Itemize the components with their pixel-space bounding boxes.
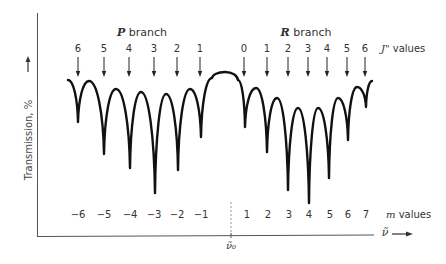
r-branch-title: R branch [281,28,332,38]
r-branch-m-label: 2 [265,210,271,220]
p-branch-j-label: 1 [197,44,203,54]
y-arrow-icon [26,56,31,72]
arrowhead-icon [242,71,246,77]
spectrum-figure [0,0,446,264]
p-branch-j-label: 4 [126,44,132,54]
arrowhead-icon [198,71,202,77]
arrowhead-icon [363,71,367,77]
r-branch-j-label: 2 [285,44,291,54]
arrowhead-icon [325,71,329,77]
r-branch-m-label: 5 [327,210,333,220]
p-branch-j-label: 2 [174,44,180,54]
p-branch-m-label: −4 [123,210,138,220]
p-branch-m-label: −6 [71,210,86,220]
band-center-label: ν̃₀ [226,241,236,251]
r-branch-m-label: 3 [286,210,292,220]
arrowhead-icon [127,71,131,77]
arrowhead-icon [152,71,156,77]
spectrum-curve [68,72,372,203]
j-values-label: J" values [381,44,425,54]
p-branch-m-label: −1 [194,210,209,220]
arrowhead-icon [306,71,310,77]
x-axis [38,235,375,237]
r-branch-j-label: 3 [305,44,311,54]
arrowhead-icon [175,71,179,77]
p-branch-m-label: −5 [97,210,112,220]
p-branch-j-label: 5 [101,44,107,54]
p-branch-m-label: −2 [170,210,185,220]
arrowhead-icon [265,71,269,77]
p-branch-j-label: 6 [75,44,81,54]
r-branch-j-label: 6 [362,44,368,54]
r-branch-j-label: 5 [344,44,350,54]
arrowhead-icon [76,71,80,77]
r-branch-m-label: 4 [306,210,312,220]
arrowhead-icon [286,71,290,77]
m-values-label: m values [386,210,431,220]
x-arrow-icon [392,232,413,237]
x-axis-label: ν̃ [382,228,389,238]
line-arrows [76,57,367,77]
r-branch-m-label: 1 [244,210,250,220]
y-axis-label: Transmission, % [23,100,34,180]
p-branch-j-label: 3 [151,44,157,54]
arrowhead-icon [102,71,106,77]
r-branch-j-label: 4 [324,44,330,54]
r-branch-j-label: 1 [264,44,270,54]
p-branch-title: P branch [117,28,167,38]
arrowhead-icon [345,71,349,77]
p-branch-m-label: −3 [147,210,162,220]
r-branch-m-label: 6 [345,210,351,220]
r-branch-m-label: 7 [363,210,369,220]
r-branch-j-label: 0 [241,44,247,54]
